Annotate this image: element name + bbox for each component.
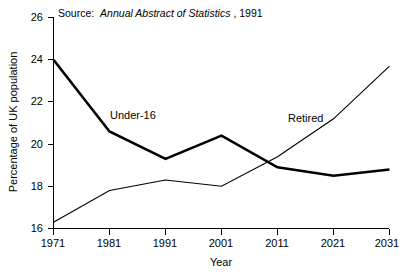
source-prefix: Source: <box>58 7 94 19</box>
x-axis-ticks <box>54 229 390 235</box>
x-tick-label-2021: 2021 <box>321 237 345 249</box>
series-label-retired: Retired <box>288 112 323 124</box>
y-tick-label-26: 26 <box>31 11 43 23</box>
x-tick-label-2001: 2001 <box>209 237 233 249</box>
x-tick-label-1971: 1971 <box>41 237 65 249</box>
source-publication: Annual Abstract of Statistics <box>99 7 231 19</box>
x-tick-label-2011: 2011 <box>265 237 289 249</box>
x-axis-title: Year <box>210 256 233 268</box>
series-line-under16 <box>54 60 390 176</box>
source-annotation: Source: Annual Abstract of Statistics , … <box>58 7 263 19</box>
x-tick-label-2031: 2031 <box>375 237 399 249</box>
y-tick-label-22: 22 <box>31 95 43 107</box>
series-line-retired <box>54 66 390 222</box>
x-tick-label-1991: 1991 <box>153 237 177 249</box>
y-tick-label-16: 16 <box>31 222 43 234</box>
y-axis-ticks <box>48 18 54 229</box>
y-axis-tick-labels: 26 24 22 20 18 16 <box>31 11 43 234</box>
y-tick-label-20: 20 <box>31 138 43 150</box>
chart-container: Source: Annual Abstract of Statistics , … <box>0 0 404 274</box>
line-chart: Source: Annual Abstract of Statistics , … <box>0 0 404 274</box>
y-tick-label-24: 24 <box>31 53 43 65</box>
y-axis-title: Percentage of UK population <box>7 52 19 193</box>
y-tick-label-18: 18 <box>31 180 43 192</box>
x-tick-label-1981: 1981 <box>97 237 121 249</box>
source-year: , 1991 <box>233 7 262 19</box>
x-axis-tick-labels: 1971 1981 1991 2001 2011 2021 2031 <box>41 237 399 249</box>
series-label-under16: Under-16 <box>110 109 156 121</box>
